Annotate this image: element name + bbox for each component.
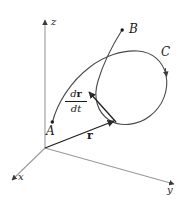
position-vector-label: r <box>87 129 93 142</box>
figure-canvas <box>0 0 186 201</box>
point-a-label: A <box>46 125 55 137</box>
curve-direction-arrow <box>165 68 166 77</box>
velocity-numerator-var: r <box>77 88 82 99</box>
point-b-marker <box>121 28 124 31</box>
x-axis-line <box>12 148 45 180</box>
position-vector-arrow <box>45 121 114 148</box>
velocity-vector-arrow <box>89 92 116 122</box>
point-b-label: B <box>129 23 138 35</box>
velocity-denominator: dt <box>65 103 87 115</box>
y-axis-line <box>45 148 174 184</box>
x-axis-label: x <box>18 172 24 182</box>
vector-calculus-figure: z x y A B C r dr dt <box>0 0 186 201</box>
y-axis-label: y <box>167 185 173 195</box>
z-axis-label: z <box>51 17 56 27</box>
velocity-numerator: dr <box>65 88 87 100</box>
fraction-bar <box>65 101 87 102</box>
velocity-vector-label: dr dt <box>65 88 87 114</box>
curve-c-label: C <box>161 46 170 58</box>
